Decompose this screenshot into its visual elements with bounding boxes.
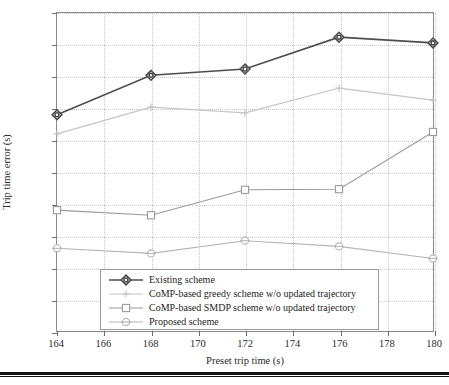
x-tick-mark (57, 331, 58, 336)
chart-legend: Existing schemeCoMP-based greedy scheme … (100, 269, 379, 330)
series-line (57, 37, 433, 115)
x-tick-label: 172 (237, 338, 253, 349)
data-point-diamond (52, 110, 62, 120)
data-point-circle (428, 255, 438, 262)
x-tick-mark (104, 331, 105, 336)
data-point-square (241, 186, 248, 193)
series-0 (52, 32, 438, 119)
data-point-plus (241, 109, 248, 116)
x-tick-mark (341, 331, 342, 336)
footer-rule-thick (0, 372, 449, 375)
x-tick-mark (152, 331, 153, 336)
x-tick-mark (293, 331, 294, 336)
y-axis-title: Trip time error (s) (1, 134, 12, 210)
data-point-square (429, 128, 436, 135)
data-point-plus (53, 130, 60, 137)
data-point-diamond (121, 275, 131, 285)
data-point-circle (334, 243, 344, 250)
x-tick-label: 180 (426, 338, 442, 349)
x-tick-mark (246, 331, 247, 336)
x-axis-title: Preset trip time (s) (206, 355, 284, 366)
gridline-vertical (435, 13, 436, 331)
data-point-circle (240, 237, 250, 244)
x-tick-label: 168 (143, 338, 159, 349)
data-point-circle (146, 250, 156, 257)
series-line (57, 132, 433, 215)
series-2 (53, 128, 436, 218)
x-tick-label: 176 (332, 338, 348, 349)
legend-label: Proposed scheme (149, 315, 219, 329)
data-point-diamond (334, 32, 344, 42)
x-tick-label: 164 (48, 338, 64, 349)
legend-marker-plus-icon (106, 287, 146, 301)
x-tick-mark (435, 331, 436, 336)
x-tick-label: 166 (95, 338, 111, 349)
legend-item[interactable]: Proposed scheme (106, 315, 378, 329)
data-point-square (122, 304, 129, 311)
legend-item[interactable]: Existing scheme (106, 273, 378, 287)
series-3 (52, 237, 438, 262)
data-point-diamond (428, 38, 438, 48)
x-tick-label: 170 (190, 338, 206, 349)
data-point-diamond (146, 70, 156, 80)
data-point-plus (122, 290, 129, 297)
x-tick-mark (199, 331, 200, 336)
x-tick-mark (388, 331, 389, 336)
data-point-square (53, 207, 60, 214)
legend-label: Existing scheme (149, 273, 215, 287)
data-point-square (335, 186, 342, 193)
footer-rule-thin (0, 376, 449, 377)
legend-marker-square-icon (106, 301, 146, 315)
data-point-circle (121, 318, 131, 325)
legend-label: CoMP-based greedy scheme w/o updated tra… (149, 287, 356, 301)
data-point-plus (335, 84, 342, 91)
legend-label: CoMP-based SMDP scheme w/o updated traje… (149, 301, 356, 315)
legend-item[interactable]: CoMP-based greedy scheme w/o updated tra… (106, 287, 378, 301)
legend-marker-diamond-icon (106, 273, 146, 287)
data-point-circle (52, 245, 62, 252)
x-tick-label: 178 (379, 338, 395, 349)
data-point-plus (147, 104, 154, 111)
figure-root: Trip time error (s) Preset trip time (s)… (0, 0, 449, 385)
legend-marker-circle-icon (106, 315, 146, 329)
data-point-square (147, 212, 154, 219)
legend-item[interactable]: CoMP-based SMDP scheme w/o updated traje… (106, 301, 378, 315)
data-point-diamond (240, 64, 250, 74)
x-tick-label: 174 (284, 338, 300, 349)
